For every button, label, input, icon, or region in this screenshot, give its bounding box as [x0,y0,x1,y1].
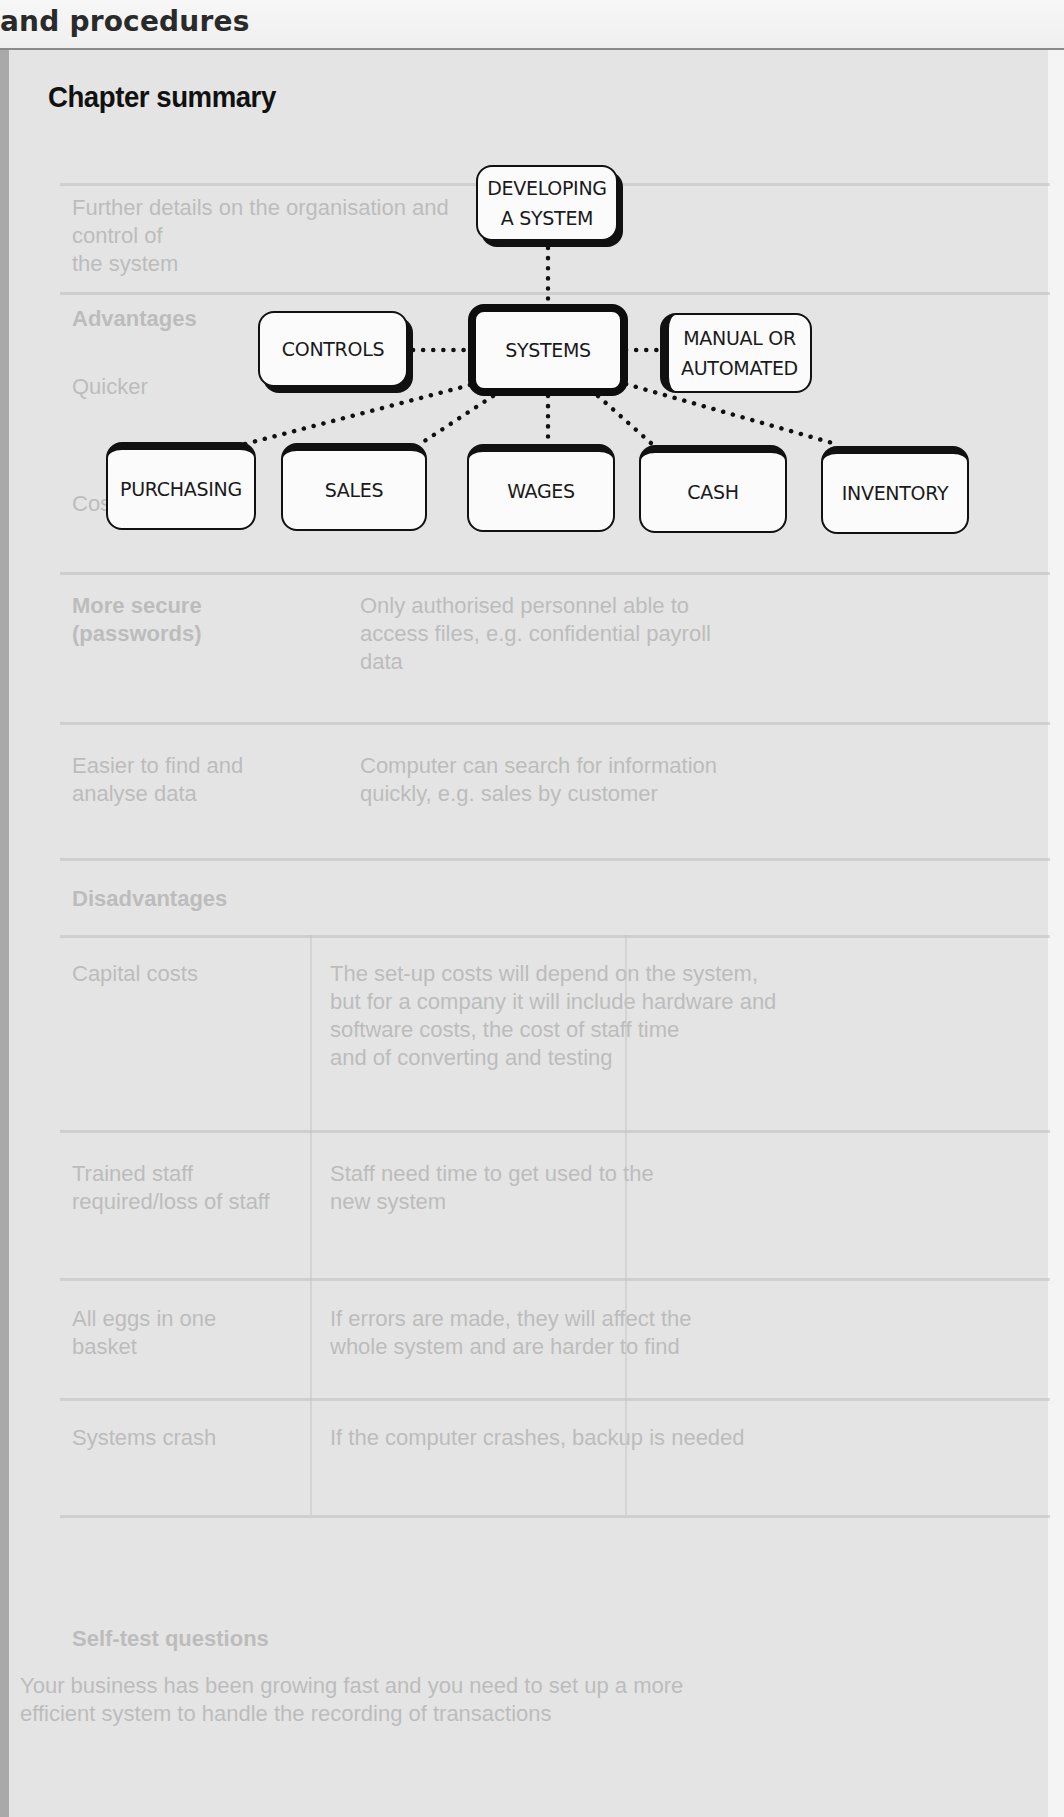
node-inventory: INVENTORY [821,446,969,534]
node-label: SYSTEMS [505,335,591,365]
node-purchasing: PURCHASING [106,442,256,530]
node-label: CONTROLS [282,334,384,364]
node-cash: CASH [639,445,787,533]
systems-concept-diagram: DEVELOPING A SYSTEM CONTROLS SYSTEMS MAN… [0,0,1064,600]
node-label: INVENTORY [842,478,949,508]
node-label: PURCHASING [120,474,242,504]
node-label: DEVELOPING [487,173,607,203]
edge-systems-purchasing [245,385,470,444]
node-label: WAGES [507,476,575,506]
node-label: CASH [687,477,738,507]
node-developing-a-system: DEVELOPING A SYSTEM [476,165,618,241]
node-label: AUTOMATED [681,353,798,383]
node-manual-or-automated: MANUAL OR AUTOMATED [660,313,812,393]
node-wages: WAGES [467,444,615,532]
node-label: MANUAL OR [681,323,798,353]
node-label: A SYSTEM [487,203,607,233]
node-label: SALES [325,475,384,505]
node-controls: CONTROLS [258,311,408,387]
edge-systems-inventory [626,384,836,444]
edge-systems-cash [598,396,652,444]
node-systems: SYSTEMS [468,304,628,396]
edge-systems-sales [420,396,493,444]
node-sales: SALES [281,443,427,531]
